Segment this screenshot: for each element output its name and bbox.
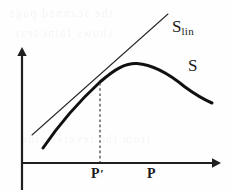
response-curve-s (43, 63, 212, 148)
x-axis-label: P (147, 167, 156, 181)
y-axis-arrowhead-icon (17, 47, 26, 56)
figure-container: the scanned page shows faint text from t… (0, 0, 232, 194)
diagram-canvas (0, 0, 232, 194)
x-axis-arrowhead-icon (212, 158, 221, 168)
tangency-x-label: P′ (91, 167, 104, 181)
tangent-line-slin (32, 14, 168, 135)
tangency-label-base: P (91, 166, 100, 181)
curve-label: S (188, 57, 197, 74)
prime-mark-icon: ′ (100, 166, 104, 181)
tangent-curve-label: Slin (172, 18, 194, 37)
tangent-label-subscript: lin (181, 25, 194, 37)
